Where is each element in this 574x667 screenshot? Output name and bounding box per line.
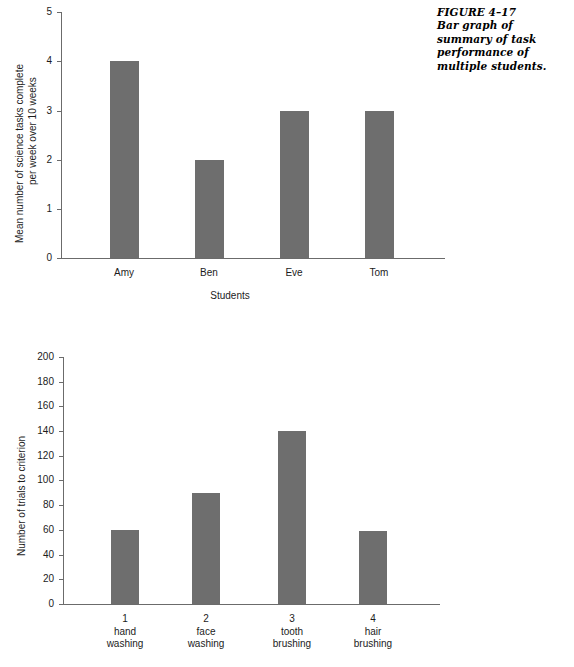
- bar-tom: [365, 111, 394, 258]
- bar-hair-brushing: [359, 531, 387, 604]
- y-tick: [57, 61, 61, 62]
- y-tick: [59, 431, 63, 432]
- x-category-line: hair: [365, 626, 382, 637]
- y-tick-label: 5: [30, 7, 52, 17]
- y-tick: [59, 357, 63, 358]
- x-axis-title: Students: [180, 290, 280, 301]
- y-tick: [59, 555, 63, 556]
- bar-face-washing: [192, 493, 220, 604]
- x-category-label-tooth-brushing: 3 tooth brushing: [249, 613, 335, 651]
- y-tick: [59, 456, 63, 457]
- y-tick-label: 20: [22, 574, 54, 584]
- y-tick-label: 180: [22, 377, 54, 387]
- figure-caption-id: FIGURE 4–17: [437, 6, 567, 19]
- y-tick: [59, 579, 63, 580]
- y-tick: [57, 258, 61, 259]
- x-category-label-hair-brushing: 4 hair brushing: [330, 613, 416, 651]
- x-category-label-eve: Eve: [251, 267, 337, 280]
- x-category-label-tom: Tom: [336, 267, 422, 280]
- x-category-label-ben: Ben: [166, 267, 252, 280]
- y-tick: [57, 209, 61, 210]
- bar-amy: [110, 61, 139, 258]
- x-category-line: washing: [107, 638, 144, 649]
- y-tick-label: 200: [22, 352, 54, 362]
- y-tick: [59, 382, 63, 383]
- figure-caption-text: Bar graph of summary of task performance…: [437, 19, 567, 73]
- y-tick-label: 4: [30, 56, 52, 66]
- x-category-line: brushing: [354, 638, 392, 649]
- bar-ben: [195, 160, 224, 258]
- x-category-line: tooth: [281, 626, 303, 637]
- bar-tooth-brushing: [278, 431, 306, 604]
- x-category-line: 2: [203, 613, 209, 624]
- bar-hand-washing: [111, 530, 139, 604]
- x-category-line: brushing: [273, 638, 311, 649]
- y-tick-label: 140: [22, 426, 54, 436]
- y-tick: [59, 505, 63, 506]
- bar-chart-trials-to-criterion: 200 180 160 140 120 100 80 60 40 20 0 1 …: [0, 340, 450, 667]
- x-category-line: hand: [114, 626, 136, 637]
- y-axis-title: Number of trials to criterion: [16, 436, 29, 556]
- y-axis-title-line2: per week over 10 weeks: [27, 77, 40, 185]
- x-category-line: 3: [289, 613, 295, 624]
- y-tick-label: 160: [22, 401, 54, 411]
- y-tick-label: 1: [30, 204, 52, 214]
- x-category-label-amy: Amy: [81, 267, 167, 280]
- y-tick-label: 0: [30, 253, 52, 263]
- y-tick-label: 0: [22, 599, 54, 609]
- y-tick: [57, 160, 61, 161]
- y-tick: [57, 111, 61, 112]
- x-axis-line: [63, 604, 440, 605]
- x-category-label-hand-washing: 1 hand washing: [82, 613, 168, 651]
- x-category-line: face: [197, 626, 216, 637]
- y-axis-line: [63, 357, 64, 604]
- y-tick: [59, 406, 63, 407]
- bar-eve: [280, 111, 309, 258]
- x-category-line: 1: [122, 613, 128, 624]
- y-axis-title-line1: Mean number of science tasks complete: [14, 64, 27, 243]
- x-axis-line: [61, 258, 445, 259]
- x-category-line: washing: [188, 638, 225, 649]
- x-category-label-face-washing: 2 face washing: [163, 613, 249, 651]
- figure-caption: FIGURE 4–17 Bar graph of summary of task…: [437, 6, 567, 73]
- bar-chart-task-performance: 5 4 3 2 1 0 Amy Ben Eve Tom Students Mea…: [0, 0, 450, 300]
- figure-4-18: 200 180 160 140 120 100 80 60 40 20 0 1 …: [0, 340, 574, 667]
- figure-4-17: 5 4 3 2 1 0 Amy Ben Eve Tom Students Mea…: [0, 0, 574, 330]
- y-tick: [59, 530, 63, 531]
- y-axis-line: [61, 12, 62, 259]
- y-tick: [59, 604, 63, 605]
- x-category-line: 4: [370, 613, 376, 624]
- y-tick: [57, 12, 61, 13]
- y-tick: [59, 480, 63, 481]
